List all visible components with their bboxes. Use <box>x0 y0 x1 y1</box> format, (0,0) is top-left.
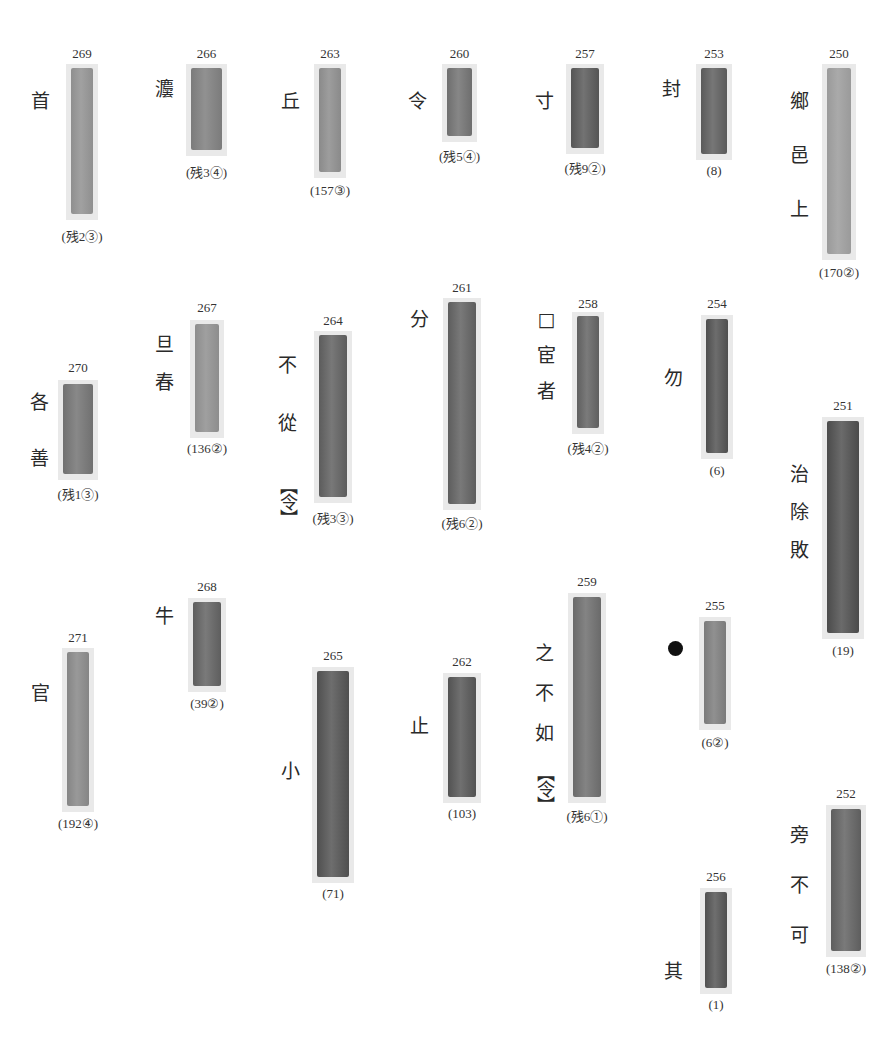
slip-caption: (残1③) <box>43 484 113 503</box>
slip-number: 252 <box>826 786 866 802</box>
slip-image <box>696 64 732 160</box>
slip-image <box>186 64 227 156</box>
wood-fragment <box>831 809 861 951</box>
transcription-char: □ <box>537 310 556 346</box>
transcription-char: 分 <box>410 310 429 334</box>
wood-fragment <box>827 421 859 633</box>
wood-fragment <box>71 68 93 214</box>
slip-caption: (157③) <box>295 183 365 199</box>
slip-number: 253 <box>694 46 734 62</box>
transcription-char: 【令】 <box>278 472 296 530</box>
transcription: 止 <box>410 717 429 741</box>
slip-number: 271 <box>58 630 98 646</box>
transcription: 各善 <box>30 393 49 505</box>
transcription-char: 首 <box>31 92 50 116</box>
slip-caption: (71) <box>298 886 368 902</box>
transcription-char: 止 <box>410 717 429 741</box>
transcription: 寸 <box>535 92 554 116</box>
slip-image <box>314 64 346 178</box>
wood-fragment <box>317 671 349 877</box>
transcription-char: 如 <box>535 724 554 764</box>
slip-image <box>566 64 604 154</box>
slip-image <box>62 648 94 812</box>
slip-number: 258 <box>568 296 608 312</box>
transcription-char: 勿 <box>664 369 683 393</box>
transcription-char: 春 <box>155 373 174 411</box>
transcription-char: 之 <box>535 644 554 684</box>
transcription-char: 寸 <box>535 92 554 116</box>
slip-number: 268 <box>187 579 227 595</box>
wood-fragment <box>67 652 89 806</box>
transcription-char: 上 <box>790 200 809 254</box>
transcription-char: 牛 <box>155 607 174 631</box>
slip-caption: (8) <box>679 163 749 179</box>
slip-caption: (残3④) <box>172 162 242 181</box>
transcription: 治除敗 <box>790 465 809 579</box>
transcription-char: 旁 <box>790 826 809 876</box>
wood-fragment <box>571 68 599 148</box>
slip-number: 266 <box>187 46 227 62</box>
slip-image <box>699 617 731 730</box>
wood-fragment <box>63 384 93 474</box>
slip-number: 254 <box>697 296 737 312</box>
transcription-char: 不 <box>790 876 809 926</box>
wood-fragment <box>319 68 341 172</box>
slip-image <box>568 593 606 803</box>
transcription-char: 丘 <box>281 92 300 116</box>
wood-fragment <box>705 892 727 988</box>
transcription-char: 官 <box>31 684 50 708</box>
wood-fragment <box>448 677 476 797</box>
slip-caption: (残6①) <box>552 806 622 825</box>
slip-image <box>312 667 354 883</box>
transcription-char: 旦 <box>155 335 174 373</box>
transcription: 鄉邑上 <box>790 92 809 254</box>
slip-number: 270 <box>58 360 98 376</box>
slip-number: 257 <box>565 46 605 62</box>
slip-number: 255 <box>695 598 735 614</box>
transcription-char: 令 <box>408 92 427 116</box>
dot-mark-icon <box>668 641 683 656</box>
transcription: 丘 <box>281 92 300 116</box>
slip-number: 259 <box>567 574 607 590</box>
slip-image <box>572 312 604 434</box>
slip-caption: (残3③) <box>298 508 368 527</box>
transcription-char: 者 <box>537 382 556 418</box>
transcription: 令 <box>408 92 427 116</box>
wood-fragment <box>195 324 219 432</box>
slip-image <box>822 64 856 260</box>
transcription-char: 從 <box>278 414 297 472</box>
wood-fragment <box>706 319 728 453</box>
slip-caption: (6) <box>682 463 752 479</box>
slip-caption: (残5④) <box>425 146 495 165</box>
wood-fragment <box>573 597 601 797</box>
slip-number: 269 <box>62 46 102 62</box>
slip-image <box>443 673 481 803</box>
slip-image <box>443 298 481 510</box>
transcription-char: 【令】 <box>535 764 553 804</box>
slip-image <box>314 331 352 503</box>
transcription: 不從【令】 <box>278 356 297 530</box>
slip-caption: (残9②) <box>550 158 620 177</box>
wood-fragment <box>701 68 727 154</box>
transcription-char: 不 <box>535 684 554 724</box>
wood-fragment <box>193 602 221 686</box>
slip-caption: (138②) <box>811 961 881 977</box>
slip-caption: (19) <box>808 643 878 659</box>
slip-image <box>826 805 866 957</box>
slip-number: 267 <box>187 300 227 316</box>
transcription: 首 <box>31 92 50 116</box>
wood-fragment <box>704 621 726 724</box>
transcription: 封 <box>662 80 681 104</box>
transcription: 牛 <box>155 607 174 631</box>
transcription-char: 各 <box>30 393 49 449</box>
wood-fragment <box>319 335 347 497</box>
slip-caption: (残6②) <box>427 513 497 532</box>
transcription-char: 鄉 <box>790 92 809 146</box>
transcription-char: 邑 <box>790 146 809 200</box>
slip-number: 262 <box>442 654 482 670</box>
slip-caption: (残2③) <box>47 226 117 245</box>
transcription-char: 其 <box>664 962 683 986</box>
transcription-char: 敗 <box>790 541 809 579</box>
slip-number: 263 <box>310 46 350 62</box>
transcription-char: 小 <box>281 762 300 786</box>
